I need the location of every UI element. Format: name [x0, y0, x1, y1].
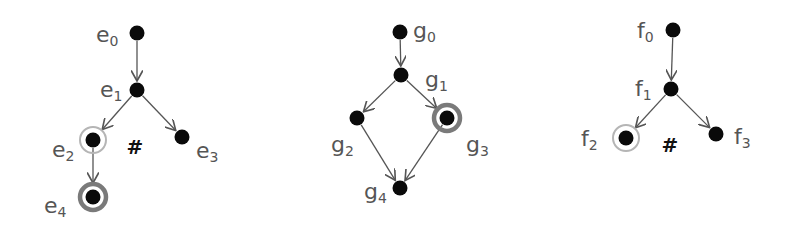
edge-e1-e3: [143, 96, 176, 131]
node-e3: [175, 130, 190, 145]
label-e0: e0: [96, 22, 118, 49]
label-g1: g1: [425, 67, 448, 94]
node-e0: [130, 26, 145, 41]
label-e2: e2: [52, 137, 74, 164]
label-f0: f0: [637, 18, 654, 45]
edge-g3-g4: [405, 125, 443, 181]
edge-f1-f3: [677, 95, 710, 128]
node-g0: [393, 25, 408, 40]
node-f3: [709, 127, 724, 142]
hash-symbol-f: #: [662, 133, 679, 157]
label-g2: g2: [331, 132, 354, 159]
label-g0: g0: [413, 18, 436, 45]
edge-f0-f1: [671, 38, 672, 80]
edge-g1-g2: [363, 81, 395, 112]
node-g1: [394, 68, 409, 83]
label-e4: e4: [44, 193, 67, 220]
node-e1: [130, 83, 145, 98]
edge-g2-g4: [361, 125, 395, 181]
label-e1: e1: [100, 77, 122, 104]
edges-layer: [93, 38, 710, 183]
node-f2: [619, 131, 634, 146]
node-g3: [440, 111, 455, 126]
label-g4: g4: [364, 179, 387, 206]
hash-symbol-e: #: [127, 135, 144, 159]
nodes-layer: [86, 23, 724, 205]
node-f0: [666, 23, 681, 38]
node-g2: [350, 111, 365, 126]
label-e3: e3: [196, 138, 218, 165]
node-e2: [86, 133, 101, 148]
node-f1: [664, 82, 679, 97]
node-e4: [86, 190, 101, 205]
label-f3: f3: [734, 124, 751, 151]
dag-diagram: e0e1e2e3e4#g0g1g2g3g4f0f1f2f3#: [0, 0, 797, 235]
node-g4: [393, 181, 408, 196]
edge-g0-g1: [400, 40, 401, 66]
label-g3: g3: [466, 132, 489, 159]
label-f1: f1: [635, 76, 652, 103]
label-f2: f2: [581, 126, 598, 153]
